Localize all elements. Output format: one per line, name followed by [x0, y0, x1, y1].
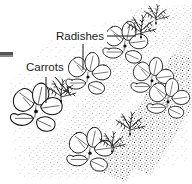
left-edge-bar [0, 52, 13, 55]
radishes-label: Radishes [56, 30, 104, 42]
edge-marks [0, 52, 13, 57]
carrots-label: Carrots [26, 61, 64, 73]
left-edge-bar-light [0, 55, 13, 57]
illustration-canvas: Radishes Carrots [0, 0, 192, 184]
garden-interplanting-figure: Radishes Carrots [0, 0, 192, 184]
